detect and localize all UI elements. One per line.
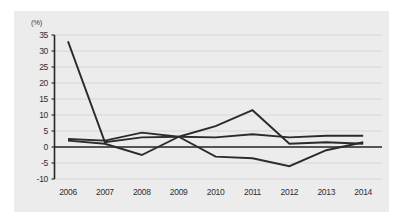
y-axis-tick-label: -5 xyxy=(22,158,48,168)
x-axis-tick-label: 2013 xyxy=(309,187,343,197)
y-axis-tick-label: 30 xyxy=(22,46,48,56)
y-axis-tick-label: 20 xyxy=(22,78,48,88)
x-axis-tick-label: 2014 xyxy=(346,187,380,197)
x-axis-tick-label: 2007 xyxy=(88,187,122,197)
x-axis-tick-label: 2006 xyxy=(51,187,85,197)
y-axis-tick-label: 5 xyxy=(22,126,48,136)
x-axis-tick-label: 2008 xyxy=(125,187,159,197)
y-axis-tick-label: 0 xyxy=(22,142,48,152)
y-axis-tick-label: 15 xyxy=(22,94,48,104)
data-series-line xyxy=(68,133,363,141)
data-series-line xyxy=(68,41,363,143)
x-axis-tick-label: 2009 xyxy=(162,187,196,197)
x-axis-tick-label: 2010 xyxy=(199,187,233,197)
y-axis-tick-label: -10 xyxy=(22,174,48,184)
y-axis-tick-label: 25 xyxy=(22,62,48,72)
y-axis-tick-label: 10 xyxy=(22,110,48,120)
x-axis-tick-label: 2012 xyxy=(272,187,306,197)
x-axis-tick-label: 2011 xyxy=(236,187,270,197)
chart-figure: (%) 35302520151050-5-10 2006200720082009… xyxy=(0,0,403,223)
y-axis-tick-label: 35 xyxy=(22,30,48,40)
